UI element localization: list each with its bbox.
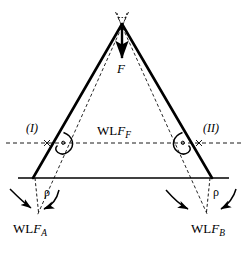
label-point-ii: (II) — [203, 122, 219, 134]
wlf-a-italic: F — [33, 221, 41, 236]
label-wlf-f: WLFF — [97, 124, 131, 140]
frame-leg-right — [122, 24, 212, 178]
wlf-b-subscript: B — [219, 228, 225, 238]
dashed-line-right — [116, 12, 209, 216]
label-rho-left: ρ — [44, 186, 50, 198]
dashed-line-left — [37, 12, 129, 216]
moment-arrows-left — [10, 189, 59, 209]
label-force-f: F — [117, 62, 125, 75]
wlf-f-subscript: F — [125, 130, 131, 140]
label-wlf-b: WLFB — [191, 222, 225, 238]
frame-leg-left — [33, 24, 122, 178]
curved-arrow-right-outer — [166, 190, 188, 209]
curved-arrow-left-outer — [10, 189, 31, 208]
label-rho-right: ρ — [213, 186, 219, 198]
moment-arrows-right — [166, 189, 236, 209]
wlf-a-prefix: WL — [13, 221, 33, 236]
label-wlf-a: WLFA — [13, 222, 47, 238]
wlf-f-italic: F — [117, 123, 125, 138]
wlf-b-italic: F — [211, 221, 219, 236]
wlf-f-prefix: WL — [97, 123, 117, 138]
curved-arrow-right-inner — [221, 189, 236, 209]
node-markers — [44, 140, 202, 146]
wlf-a-subscript: A — [41, 228, 47, 238]
figure-canvas: F (I) (II) WLFF ρ ρ WLFA WLFB — [0, 0, 246, 253]
wlf-b-prefix: WL — [191, 221, 211, 236]
apex-crossing-ticks — [117, 13, 127, 22]
label-point-i: (I) — [26, 122, 38, 134]
